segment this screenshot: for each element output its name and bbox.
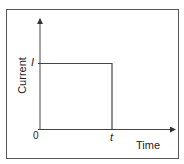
y-axis-label: Current [17, 56, 28, 96]
x-axis-label: Time [136, 140, 160, 151]
current-level-label: I [31, 57, 34, 68]
current-pulse-line [40, 64, 112, 130]
origin-label: 0 [33, 131, 39, 141]
time-mark-label: t [110, 132, 113, 143]
